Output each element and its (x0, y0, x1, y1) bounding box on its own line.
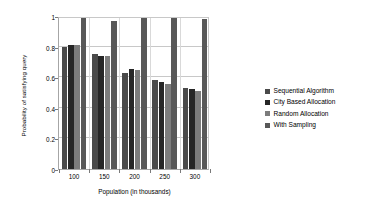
x-tick-label: 300 (175, 173, 215, 180)
legend-swatch-icon (265, 111, 270, 116)
x-tick-mark (210, 169, 211, 173)
x-axis-tick-labels: 100150200250300 (58, 173, 211, 185)
x-tick-mark (89, 169, 90, 173)
legend-item[interactable]: With Sampling (265, 120, 335, 131)
x-tick-mark (180, 169, 181, 173)
bar (195, 91, 201, 169)
legend-item-label: City Based Allocation (274, 99, 336, 106)
y-tick-label: 0.8 (25, 44, 55, 51)
bar (122, 73, 128, 169)
bar (152, 80, 158, 169)
bar-group (89, 18, 119, 169)
bar (189, 89, 195, 169)
bar-group (119, 18, 149, 169)
x-tick-mark (59, 169, 60, 173)
y-tick-label: 1 (25, 14, 55, 21)
bar (98, 56, 104, 169)
legend-item[interactable]: City Based Allocation (265, 97, 335, 108)
x-tick-mark (150, 169, 151, 173)
bar (81, 18, 87, 169)
legend-item[interactable]: Random Allocation (265, 108, 335, 119)
bar (129, 69, 135, 169)
legend-item-label: With Sampling (274, 122, 317, 129)
y-tick-label: 0 (25, 167, 55, 174)
chart-legend: Sequential AlgorithmCity Based Allocatio… (265, 86, 335, 131)
y-axis-tick-labels: 00.20.40.60.81 (22, 17, 55, 170)
legend-swatch-icon (265, 123, 270, 128)
bar-chart: Probability of satisfying query 00.20.40… (0, 0, 370, 212)
legend-swatch-icon (265, 89, 270, 94)
y-tick-label: 0.2 (25, 136, 55, 143)
bar (165, 84, 171, 169)
bar (92, 54, 98, 169)
x-axis-title: Population (in thousands) (58, 188, 211, 195)
bar-group (59, 18, 89, 169)
bar (74, 45, 80, 169)
bar-group (180, 18, 210, 169)
bar (105, 56, 111, 169)
legend-swatch-icon (265, 100, 270, 105)
bar (171, 18, 177, 169)
bar (141, 18, 147, 169)
bar (68, 45, 74, 169)
bar (202, 19, 208, 169)
y-tick-label: 0.4 (25, 105, 55, 112)
legend-item-label: Random Allocation (274, 111, 329, 118)
bar (183, 88, 189, 169)
x-tick-mark (119, 169, 120, 173)
legend-item-label: Sequential Algorithm (274, 88, 334, 95)
y-tick-label: 0.6 (25, 75, 55, 82)
plot-area (58, 17, 209, 170)
bar (159, 82, 165, 169)
bar (62, 47, 68, 169)
y-tick-mark (55, 170, 58, 171)
bar (111, 21, 117, 169)
legend-item[interactable]: Sequential Algorithm (265, 86, 335, 97)
bar-group (150, 18, 180, 169)
bar (135, 70, 141, 169)
